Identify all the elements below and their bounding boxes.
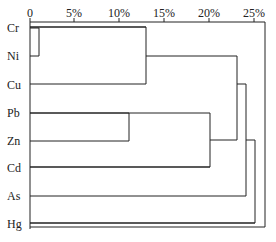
tick-label: 5% xyxy=(66,6,82,20)
leaf-label-pb: Pb xyxy=(7,106,20,120)
leaf-labels: Cr Ni Cu Pb Zn Cd As Hg xyxy=(7,21,22,231)
tick-label: 10% xyxy=(108,6,130,20)
tick-label: 15% xyxy=(153,6,175,20)
leaf-label-as: As xyxy=(7,189,21,203)
x-tick-labels: 0 5% 10% 15% 20% 25% xyxy=(27,6,265,20)
dendrogram-branches xyxy=(30,22,265,229)
leaf-label-cu: Cu xyxy=(7,78,21,92)
tick-label: 20% xyxy=(198,6,220,20)
leaf-label-cd: Cd xyxy=(7,161,21,175)
tick-label: 0 xyxy=(27,6,33,20)
tick-label: 25% xyxy=(243,6,265,20)
leaf-label-hg: Hg xyxy=(7,217,22,231)
leaf-label-cr: Cr xyxy=(7,21,19,35)
leaf-label-ni: Ni xyxy=(7,49,20,63)
dendrogram-chart: 0 5% 10% 15% 20% 25% Cr Ni Cu Pb Zn Cd A… xyxy=(0,0,276,242)
leaf-label-zn: Zn xyxy=(7,134,20,148)
